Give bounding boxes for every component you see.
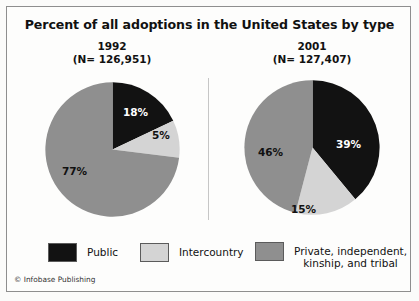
legend-label-private-line1: Private, independent, <box>294 245 407 257</box>
slice-label-intercountry-2001: 15% <box>291 203 316 215</box>
panel-heading-2001: 2001 (N= 127,407) <box>232 40 392 66</box>
legend-label-intercountry: Intercountry <box>179 243 244 258</box>
legend-label-public: Public <box>87 243 118 258</box>
figure-root: Percent of all adoptions in the United S… <box>0 0 419 301</box>
legend-swatch-private <box>255 242 284 261</box>
legend-item-intercountry: Intercountry <box>140 243 244 262</box>
slice-label-public-2001: 39% <box>336 138 361 150</box>
legend-item-public: Public <box>48 243 118 262</box>
slice-label-public-1992: 18% <box>123 106 148 118</box>
slice-label-private-2001: 46% <box>258 146 283 158</box>
panel-heading-1992: 1992 (N= 126,951) <box>32 40 192 66</box>
panel-sample-size-2001: (N= 127,407) <box>232 53 392 66</box>
legend-swatch-public <box>48 243 77 262</box>
panel-year-2001: 2001 <box>232 40 392 53</box>
chart-title: Percent of all adoptions in the United S… <box>0 17 419 32</box>
panel-divider <box>208 78 209 220</box>
legend-label-private-line2: kinship, and tribal <box>294 257 407 269</box>
copyright-credit: © Infobase Publishing <box>14 275 95 284</box>
legend-swatch-intercountry <box>140 243 169 262</box>
legend: Public Intercountry Private, independent… <box>0 240 419 270</box>
slice-label-private-1992: 77% <box>62 165 87 177</box>
slice-label-intercountry-1992: 5% <box>152 129 170 141</box>
pie-chart-1992 <box>44 81 181 218</box>
legend-label-private: Private, independent, kinship, and triba… <box>294 242 407 269</box>
panel-year-1992: 1992 <box>32 40 192 53</box>
panel-sample-size-1992: (N= 126,951) <box>32 53 192 66</box>
legend-item-private: Private, independent, kinship, and triba… <box>255 242 407 269</box>
